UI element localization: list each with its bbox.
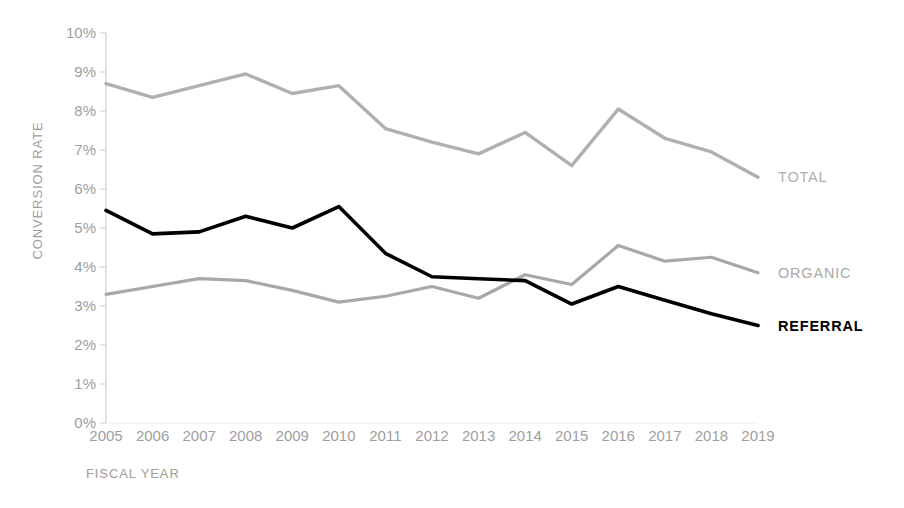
series-line-referral [106,207,758,326]
conversion-rate-line-chart: CONVERSION RATE FISCAL YEAR 0%1%2%3%4%5%… [0,0,904,508]
series-label-referral: REFERRAL [778,319,863,334]
axis-lines [100,33,758,423]
series-line-organic [106,246,758,303]
series-label-total: TOTAL [778,170,827,185]
series-label-organic: ORGANIC [778,266,851,281]
data-series-group [106,74,758,326]
plot-area [0,0,904,508]
series-line-total [106,74,758,177]
